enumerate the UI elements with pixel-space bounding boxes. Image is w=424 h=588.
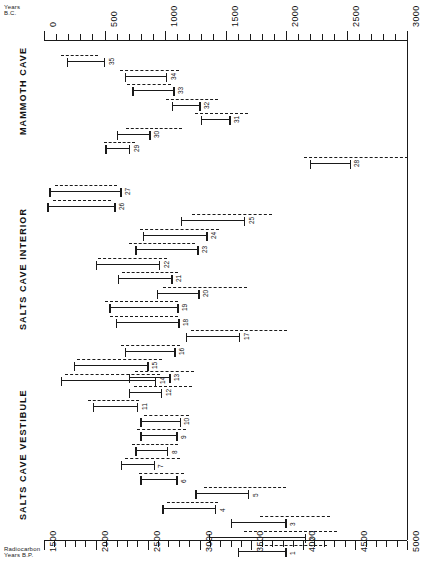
calibrated-range-bar (88, 400, 140, 401)
top-axis-tick (117, 34, 118, 40)
calibrated-range-bar (244, 531, 337, 532)
radiocarbon-range-bar (96, 264, 160, 265)
sample-number-label: 7 (157, 464, 164, 468)
sample-number-label: 11 (141, 403, 148, 410)
top-axis-tick (153, 34, 154, 40)
calibrated-range-bar (135, 371, 194, 372)
data-row: 17 (0, 327, 424, 341)
calibrated-range-bar (104, 142, 135, 143)
calibrated-range-bar (61, 55, 98, 56)
calibrated-range-bar (55, 185, 116, 186)
top-axis-tick (238, 34, 239, 40)
radiocarbon-range-bar (195, 493, 249, 494)
radiocarbon-range-bar (125, 351, 176, 352)
radiocarbon-range-bar (129, 392, 162, 393)
data-row: 29 (0, 139, 424, 153)
top-axis-tick-label: 2000 (290, 5, 300, 27)
data-row: 24 (0, 226, 424, 240)
radiocarbon-range-bar (132, 90, 175, 91)
calibrated-range-bar (132, 444, 178, 445)
sample-number-label: 12 (165, 388, 172, 395)
radiocarbon-range-bar (135, 450, 168, 451)
radiocarbon-range-bar (125, 76, 168, 77)
radiocarbon-range-bar (117, 134, 151, 135)
radiocarbon-range-bar (238, 551, 287, 552)
radiocarbon-range-bar (162, 508, 216, 509)
top-axis-tick (56, 34, 57, 40)
sample-number-label: 8 (171, 450, 178, 454)
calibrated-range-bar (191, 330, 286, 331)
data-row: 7 (0, 455, 424, 469)
sample-number-label: 28 (353, 159, 360, 166)
top-axis-tick (334, 34, 335, 40)
top-axis-tick (105, 31, 106, 40)
top-axis-tick (371, 34, 372, 40)
calibrated-range-bar (167, 502, 218, 503)
calibrated-range-bar (304, 157, 408, 158)
top-axis-tick (189, 34, 190, 40)
sample-number-label: 16 (178, 347, 185, 354)
sample-number-label: 6 (180, 479, 187, 483)
sample-number-label: 18 (182, 318, 189, 325)
sample-number-label: 19 (181, 304, 188, 311)
sample-number-label: 30 (153, 130, 160, 137)
data-row: 8 (0, 441, 424, 455)
data-row: 35 (0, 52, 424, 66)
calibrated-range-bar (260, 545, 327, 546)
calibrated-range-bar (137, 429, 186, 430)
calibrated-range-bar (129, 243, 195, 244)
calibrated-range-bar (192, 214, 272, 215)
calibrated-range-bar (260, 516, 331, 517)
sample-number-label: 24 (210, 231, 217, 238)
sample-number-label: 25 (248, 217, 255, 224)
top-axis-tick (201, 34, 202, 40)
top-axis-tick (92, 34, 93, 40)
data-row: 21 (0, 269, 424, 283)
top-axis-label: Years B.C. (4, 4, 20, 17)
calibrated-range-bar (121, 345, 180, 346)
radiocarbon-range-bar (140, 421, 180, 422)
top-axis-tick (322, 34, 323, 40)
data-row: 13 (0, 368, 424, 382)
calibrated-range-bar (134, 386, 192, 387)
top-axis-tick-label: 1000 (169, 5, 179, 27)
top-axis-tick (250, 34, 251, 40)
radiocarbon-range-bar (231, 522, 287, 523)
data-row: 11 (0, 397, 424, 411)
top-axis-tick (395, 34, 396, 40)
data-row: 18 (0, 313, 424, 327)
sample-number-label: 32 (203, 101, 210, 108)
sample-number-label: 29 (133, 145, 140, 152)
radiocarbon-range-bar (140, 479, 177, 480)
radiocarbon-range-bar (109, 307, 178, 308)
sample-number-label: 23 (201, 246, 208, 253)
calibrated-range-bar (110, 316, 177, 317)
top-axis-tick (213, 34, 214, 40)
top-axis-tick (165, 31, 166, 40)
top-axis-line (44, 40, 407, 41)
calibrated-range-bar (105, 301, 178, 302)
data-row: 6 (0, 470, 424, 484)
sample-number-label: 21 (175, 275, 182, 282)
radiocarbon-range-bar (157, 293, 200, 294)
figure-root: Years B.C. 050010001500200025003000 Radi… (0, 0, 424, 588)
sample-number-label: 3 (289, 522, 296, 526)
calibrated-range-bar (98, 258, 167, 259)
top-axis-tick (141, 34, 142, 40)
radiocarbon-range-bar (181, 220, 245, 221)
top-axis-tick (68, 34, 69, 40)
radiocarbon-range-bar (93, 406, 139, 407)
calibrated-range-bar (166, 99, 218, 100)
radiocarbon-range-bar (310, 163, 351, 164)
data-row: 33 (0, 81, 424, 95)
sample-number-label: 31 (233, 116, 240, 123)
calibrated-range-bar (122, 272, 178, 273)
calibrated-range-bar (204, 487, 286, 488)
sample-number-label: 22 (163, 260, 170, 267)
top-axis-tick (407, 31, 408, 40)
radiocarbon-range-bar (49, 191, 122, 192)
top-axis-label-line2: B.C. (4, 10, 20, 16)
calibrated-range-bar (144, 415, 190, 416)
calibrated-range-bar (140, 229, 219, 230)
top-axis-tick (298, 34, 299, 40)
